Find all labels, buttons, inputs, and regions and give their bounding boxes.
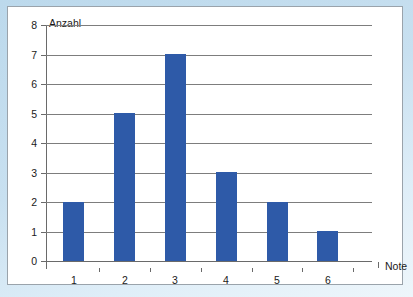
bar-4: [216, 172, 237, 261]
y-tick-label-2: 2: [20, 197, 37, 208]
y-tick-label-4: 4: [20, 138, 37, 149]
x-tick-label-1: 1: [59, 275, 89, 286]
x-axis-title: Note: [385, 260, 407, 272]
y-tick-0: [41, 261, 46, 262]
x-tick-boundary-1: [99, 268, 100, 272]
x-tick-label-2: 2: [110, 275, 140, 286]
y-tick-label-3: 3: [20, 168, 37, 179]
x-tick-boundary-4: [252, 268, 253, 272]
y-tick-label-1: 1: [20, 227, 37, 238]
x-tick-boundary-3: [201, 268, 202, 272]
gridline-0: [46, 261, 372, 262]
x-tick-label-5: 5: [262, 275, 292, 286]
x-tick-label-3: 3: [160, 275, 190, 286]
x-tick-boundary-5: [302, 268, 303, 272]
plot-area: [46, 25, 372, 261]
y-tick-label-0: 0: [20, 256, 37, 267]
x-tick-boundary-6: [353, 268, 354, 272]
bar-2: [114, 113, 135, 261]
x-tick-label-6: 6: [313, 275, 343, 286]
chart-panel: Anzahl Note 012345678 123456: [7, 6, 403, 285]
bar-5: [267, 202, 288, 261]
y-tick-label-7: 7: [20, 50, 37, 61]
bar-1: [63, 202, 84, 261]
bar-3: [165, 54, 186, 261]
y-tick-label-5: 5: [20, 109, 37, 120]
x-tick-boundary-2: [150, 268, 151, 272]
x-tick-label-4: 4: [211, 275, 241, 286]
x-axis-endcap: [378, 262, 379, 268]
y-tick-label-6: 6: [20, 79, 37, 90]
bar-6: [317, 231, 338, 261]
y-tick-label-8: 8: [20, 20, 37, 31]
chart-page: Anzahl Note 012345678 123456: [0, 0, 413, 297]
